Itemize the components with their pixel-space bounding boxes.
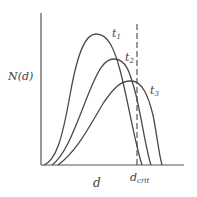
curve-t3 (58, 81, 162, 165)
size-distribution-chart (0, 0, 197, 197)
t2-subscript: 2 (129, 57, 133, 65)
x-axis-label: d (93, 177, 101, 189)
t3-subscript: 3 (154, 90, 158, 98)
y-axis-label: N(d) (8, 71, 33, 82)
d-crit-subscript: crit (137, 177, 149, 185)
d-crit-label: dcrit (130, 172, 149, 185)
t1-subscript: 1 (116, 33, 120, 41)
curve-label-t3: t3 (150, 85, 159, 98)
curve-label-t2: t2 (125, 52, 134, 65)
d-crit-main: d (130, 171, 137, 184)
curve-label-t1: t1 (112, 28, 121, 41)
